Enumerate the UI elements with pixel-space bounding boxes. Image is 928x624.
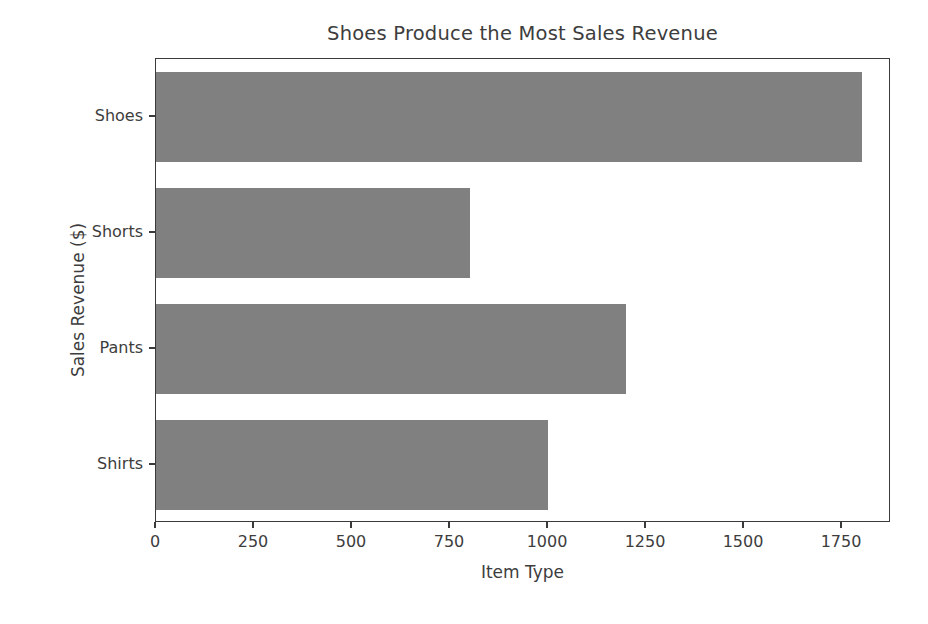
- x-tick-label-500: 500: [336, 532, 367, 551]
- bar-pants: [156, 304, 626, 394]
- x-tick-mark: [546, 522, 548, 528]
- figure-canvas: Shoes Produce the Most Sales Revenue Sal…: [0, 0, 928, 624]
- x-tick-label-1250: 1250: [625, 532, 666, 551]
- plot-area: [155, 58, 890, 522]
- x-tick-mark: [742, 522, 744, 528]
- x-tick-mark: [154, 522, 156, 528]
- x-tick-label-1000: 1000: [527, 532, 568, 551]
- x-tick-label-1750: 1750: [821, 532, 862, 551]
- bar-shoes: [156, 72, 862, 162]
- x-tick-mark: [448, 522, 450, 528]
- x-tick-label-0: 0: [150, 532, 160, 551]
- x-tick-label-750: 750: [434, 532, 465, 551]
- y-tick-label-shirts: Shirts: [97, 454, 143, 473]
- y-tick-label-shoes: Shoes: [95, 106, 143, 125]
- bar-shirts: [156, 420, 548, 510]
- x-tick-mark: [252, 522, 254, 528]
- y-axis-label: Sales Revenue ($): [68, 68, 88, 532]
- bar-shorts: [156, 188, 470, 278]
- x-tick-mark: [350, 522, 352, 528]
- x-tick-mark: [840, 522, 842, 528]
- x-tick-label-1500: 1500: [723, 532, 764, 551]
- y-tick-label-shorts: Shorts: [92, 222, 143, 241]
- x-tick-mark: [644, 522, 646, 528]
- x-axis-label: Item Type: [155, 562, 890, 582]
- y-tick-label-pants: Pants: [100, 338, 143, 357]
- chart-title: Shoes Produce the Most Sales Revenue: [155, 22, 890, 45]
- x-tick-label-250: 250: [238, 532, 269, 551]
